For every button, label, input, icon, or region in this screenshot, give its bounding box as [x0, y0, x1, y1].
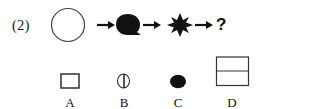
option-label-a[interactable]: A: [60, 95, 80, 109]
option-b-circle-vertical-line-icon[interactable]: [118, 74, 130, 88]
option-label-d[interactable]: D: [222, 95, 242, 109]
option-a-square-outline-icon[interactable]: [61, 74, 79, 88]
option-label-c[interactable]: C: [168, 95, 188, 109]
arrow-right-icon: [143, 21, 161, 29]
speech-bubble-filled-icon: [116, 14, 141, 35]
circle-outline-icon: [52, 9, 85, 42]
missing-item-question-mark: ?: [216, 15, 226, 35]
eight-point-star-filled-icon: [167, 13, 193, 37]
option-c-filled-ellipse-icon[interactable]: [170, 75, 186, 89]
option-d-rectangle-split-icon[interactable]: [217, 57, 249, 86]
arrow-right-icon: [97, 21, 115, 29]
arrow-right-icon: [195, 21, 213, 29]
option-label-b[interactable]: B: [114, 95, 134, 109]
